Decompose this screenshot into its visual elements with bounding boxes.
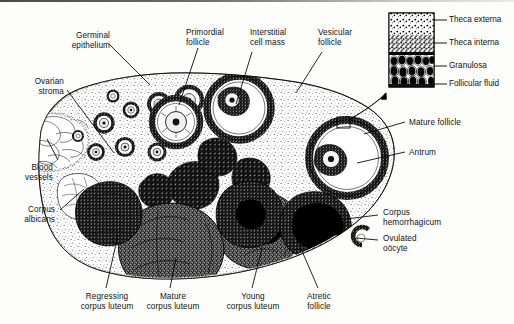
primordial-follicle xyxy=(124,103,138,117)
label-primordial-follicle: Primordial follicle xyxy=(186,28,248,47)
vesicular-follicle xyxy=(207,76,271,140)
interstitial-cell-mass xyxy=(198,138,237,176)
inset-label-follicular-fluid: Follicular fluid xyxy=(449,79,499,89)
primordial-follicle xyxy=(73,131,83,141)
primordial-follicle xyxy=(108,91,119,102)
regressing-corpus-luteum xyxy=(76,182,143,246)
inset-layer-theca-externa xyxy=(389,13,434,35)
ovulated-oocyte xyxy=(353,227,368,245)
label-corpus-albicans: Corpus albicans xyxy=(0,205,55,224)
oocyte-nucleus xyxy=(173,119,180,126)
label-corpus-hemorrhagicum: Corpus hemorrhagicum xyxy=(383,208,475,227)
ovary-section-body xyxy=(22,70,397,296)
inset-label-theca-externa: Theca externa xyxy=(449,15,501,25)
label-ovarian-stroma: Ovarian stroma xyxy=(0,77,64,96)
label-young-corpus-luteum: Young corpus luteum xyxy=(208,292,298,311)
label-atretic-follicle: Atretic follicle xyxy=(292,292,346,311)
inset-leader-lines xyxy=(434,20,447,84)
vesicular-follicle xyxy=(152,98,200,146)
oocyte-nucleus xyxy=(229,97,234,102)
mature-follicle xyxy=(309,117,385,196)
primordial-follicle xyxy=(95,114,113,132)
primordial-follicle xyxy=(149,144,165,160)
primordial-follicle xyxy=(89,145,104,160)
inset-layer-theca-interna xyxy=(389,35,434,53)
figure-canvas: Germinal epithelium Ovarian stroma Blood… xyxy=(0,0,514,324)
label-vesicular-follicle: Vesicular follicle xyxy=(318,28,376,47)
inset-basement-membrane xyxy=(389,52,434,55)
label-ovulated-oocyte: Ovulated oöcyte xyxy=(383,234,453,253)
label-germinal-epithelium: Germinal epithelium xyxy=(22,31,110,50)
label-mature-corpus-luteum: Mature corpus luteum xyxy=(128,292,218,311)
primordial-follicle xyxy=(117,139,134,156)
label-interstitial-cell-mass: Interstitial cell mass xyxy=(250,28,316,47)
label-blood-vessels: Blood vessels xyxy=(0,163,53,182)
inset-label-granulosa: Granulosa xyxy=(449,61,487,71)
corpus-hemorrhagicum xyxy=(280,192,351,260)
inset-layer-granulosa xyxy=(389,54,435,87)
oocyte-nucleus xyxy=(328,156,334,162)
label-mature-follicle: Mature follicle xyxy=(409,118,461,128)
atretic-follicle xyxy=(216,181,283,247)
inset-label-theca-interna: Theca interna xyxy=(449,38,499,48)
label-antrum: Antrum xyxy=(409,148,436,158)
follicle-wall-inset xyxy=(389,13,435,88)
